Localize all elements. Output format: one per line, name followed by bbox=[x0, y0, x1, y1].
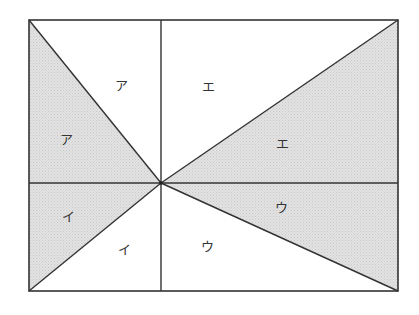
center-point bbox=[159, 181, 163, 185]
label-e-upper: エ bbox=[202, 79, 215, 94]
label-u-lower: ウ bbox=[201, 239, 214, 254]
area-division-diagram: ア ア エ エ イ イ ウ ウ bbox=[0, 0, 419, 315]
label-i-left: イ bbox=[62, 209, 75, 224]
label-e-lower: エ bbox=[276, 136, 289, 151]
label-a-lower: ア bbox=[60, 132, 73, 147]
label-a-upper: ア bbox=[115, 78, 128, 93]
label-i-lower: イ bbox=[118, 242, 131, 257]
label-u-right: ウ bbox=[275, 200, 288, 215]
